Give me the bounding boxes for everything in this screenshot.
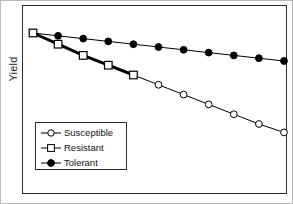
data-point <box>79 52 87 60</box>
legend-item-susceptible: Susceptible <box>40 126 126 140</box>
data-point <box>256 55 263 62</box>
legend-label-susceptible: Susceptible <box>62 126 113 140</box>
data-point <box>205 101 212 108</box>
data-point <box>281 58 288 65</box>
data-point <box>130 71 138 79</box>
open-square-icon <box>40 141 62 155</box>
series-tolerant <box>30 30 288 65</box>
data-point <box>256 121 263 128</box>
data-point <box>155 44 162 51</box>
data-point <box>55 32 62 39</box>
data-point <box>230 111 237 118</box>
legend-item-resistant: Resistant <box>40 141 126 155</box>
legend-label-resistant: Resistant <box>62 141 104 155</box>
data-point <box>281 129 288 136</box>
data-point <box>230 52 237 59</box>
filled-circle-icon <box>40 156 62 170</box>
chart-plot-area <box>1 1 293 204</box>
legend-item-tolerant: Tolerant <box>40 156 126 170</box>
data-point <box>155 81 162 88</box>
data-point <box>29 29 37 37</box>
data-point <box>80 35 87 42</box>
data-point <box>205 49 212 56</box>
data-point <box>105 38 112 45</box>
data-point <box>180 46 187 53</box>
data-point <box>180 91 187 98</box>
legend-label-tolerant: Tolerant <box>62 156 98 170</box>
data-point <box>105 61 113 69</box>
figure-container: Yield Susceptible Resistant <box>0 0 293 204</box>
legend-box: Susceptible Resistant Tolerant <box>35 122 127 170</box>
data-point <box>54 40 62 48</box>
data-point <box>130 41 137 48</box>
open-circle-icon <box>40 126 62 140</box>
